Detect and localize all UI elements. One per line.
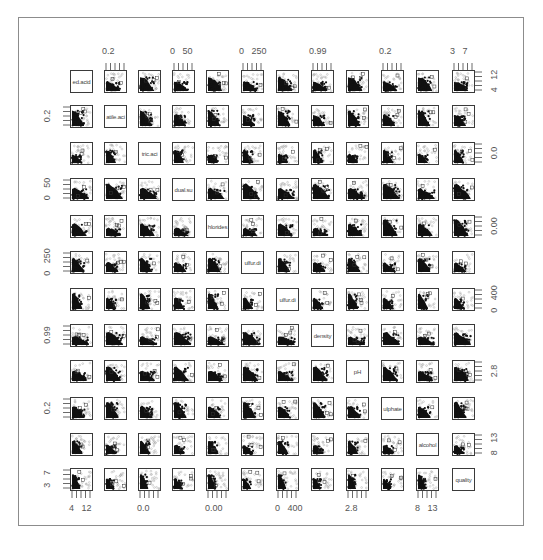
scatter-panel — [172, 215, 195, 238]
scatter-panel — [276, 215, 299, 238]
scatter-panel — [138, 360, 161, 383]
scatter-points — [242, 325, 263, 346]
scatter-panel — [70, 105, 93, 128]
scatter-panel — [311, 468, 334, 491]
variable-label: ulphate — [382, 398, 403, 419]
scatter-points — [417, 361, 438, 382]
scatter-panel — [241, 288, 264, 311]
scatter-points — [105, 398, 126, 419]
scatter-panel — [346, 397, 369, 420]
top-axis-label: 0.2 — [102, 46, 115, 56]
scatter-panel — [381, 251, 404, 274]
scatter-points — [207, 398, 228, 419]
scatter-panel — [346, 70, 369, 93]
scatter-points — [242, 106, 263, 127]
scatter-panel — [172, 70, 195, 93]
scatter-panel — [276, 178, 299, 201]
scatter-panel — [206, 142, 229, 165]
scatter-points — [417, 252, 438, 273]
scatter-points — [139, 252, 160, 273]
scatter-points — [347, 289, 368, 310]
scatter-points — [453, 216, 474, 237]
scatter-panel — [311, 215, 334, 238]
scatter-points — [207, 289, 228, 310]
top-axis-label: 0.99 — [309, 46, 327, 56]
scatter-panel — [70, 433, 93, 456]
scatter-panel — [206, 178, 229, 201]
scatter-points — [347, 216, 368, 237]
scatter-points — [139, 398, 160, 419]
scatter-panel — [70, 468, 93, 491]
scatter-points — [277, 469, 298, 490]
scatter-panel — [276, 142, 299, 165]
scatter-points — [71, 106, 92, 127]
scatter-panel — [416, 468, 439, 491]
scatter-panel — [381, 433, 404, 456]
scatter-points — [173, 216, 194, 237]
scatter-points — [71, 325, 92, 346]
variable-label: hlorides — [207, 216, 228, 237]
scatter-panel — [241, 324, 264, 347]
diagonal-panel-citric-acid: tric.aci — [138, 142, 161, 165]
scatter-panel — [104, 70, 127, 93]
scatter-panel — [416, 397, 439, 420]
scatter-panel — [241, 178, 264, 201]
axis-ticks — [475, 142, 482, 165]
bottom-axis-label: 0.00 — [205, 503, 223, 513]
scatter-points — [105, 71, 126, 92]
scatter-points — [71, 469, 92, 490]
scatter-points — [173, 361, 194, 382]
axis-ticks — [475, 288, 482, 311]
scatter-points — [382, 325, 403, 346]
scatter-points — [173, 143, 194, 164]
scatter-panel — [381, 324, 404, 347]
variable-label: dual.su — [173, 179, 194, 200]
scatter-points — [173, 289, 194, 310]
scatter-panel — [104, 215, 127, 238]
scatter-panel — [138, 468, 161, 491]
scatter-points — [347, 143, 368, 164]
variable-label: ed.acid — [71, 71, 92, 92]
scatter-points — [312, 434, 333, 455]
scatter-points — [105, 216, 126, 237]
scatter-panel — [276, 105, 299, 128]
variable-label: alcohol — [417, 434, 438, 455]
scatter-panel — [206, 324, 229, 347]
scatter-points — [382, 143, 403, 164]
scatter-panel — [70, 215, 93, 238]
left-axis-label: 3 7 — [42, 461, 52, 497]
scatter-panel — [138, 105, 161, 128]
scatter-panel — [104, 360, 127, 383]
scatter-points — [453, 434, 474, 455]
scatter-panel — [104, 142, 127, 165]
axis-ticks — [63, 468, 70, 491]
scatter-points — [277, 361, 298, 382]
scatter-points — [277, 325, 298, 346]
scatter-panel — [172, 251, 195, 274]
scatter-panel — [138, 433, 161, 456]
scatter-panel — [276, 324, 299, 347]
axis-ticks — [138, 491, 161, 498]
scatter-points — [417, 143, 438, 164]
scatter-panel — [276, 70, 299, 93]
diagonal-panel-density: density — [311, 324, 334, 347]
scatter-panel — [346, 178, 369, 201]
scatter-panel — [172, 468, 195, 491]
right-axis-label: 4 12 — [489, 61, 499, 101]
scatter-panel — [416, 251, 439, 274]
scatter-panel — [138, 178, 161, 201]
scatter-panel — [452, 397, 475, 420]
scatter-panel — [416, 178, 439, 201]
axis-ticks — [63, 324, 70, 347]
scatter-panel — [138, 215, 161, 238]
diagonal-panel-alcohol: alcohol — [416, 433, 439, 456]
scatter-panel — [452, 215, 475, 238]
scatter-points — [382, 252, 403, 273]
scatter-points — [242, 398, 263, 419]
scatter-panel — [452, 251, 475, 274]
scatter-points — [105, 252, 126, 273]
scatter-points — [347, 434, 368, 455]
scatter-points — [312, 106, 333, 127]
bottom-axis-label: 2.8 — [345, 503, 358, 513]
scatter-points — [453, 361, 474, 382]
